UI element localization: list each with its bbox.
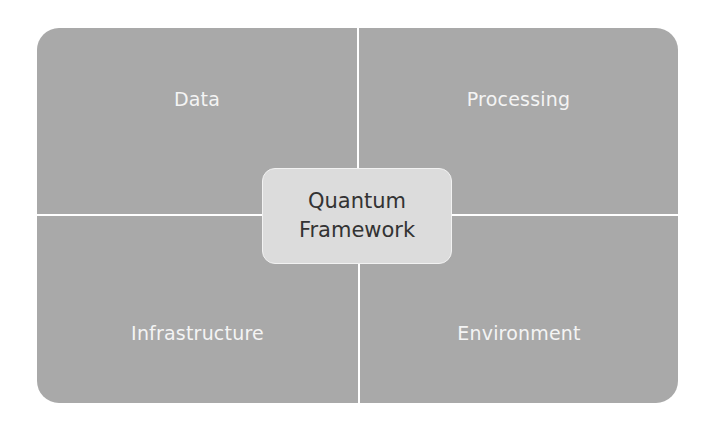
- center-label-line-1: Quantum: [308, 187, 406, 216]
- center-box: Quantum Framework: [262, 168, 452, 264]
- quadrant-label-environment: Environment: [360, 322, 678, 344]
- quadrant-label-data: Data: [37, 88, 357, 110]
- center-label-line-2: Framework: [299, 216, 415, 245]
- quadrant-label-infrastructure: Infrastructure: [37, 322, 358, 344]
- quadrant-label-processing: Processing: [359, 88, 678, 110]
